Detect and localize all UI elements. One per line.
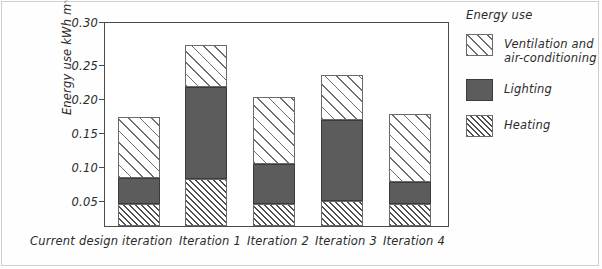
legend-item-heating[interactable]: Heating [466,115,598,137]
bar-segment-heating[interactable] [118,204,160,226]
bar-segment-ventilation[interactable] [118,117,160,178]
legend-item-ventilation[interactable]: Ventilation and air-conditioning [466,34,598,65]
bar-current-design-iteration[interactable] [118,22,160,226]
y-tick-label-5: 0.30 [54,16,98,30]
legend-label-lighting: Lighting [504,79,552,96]
legend-label-ventilation-line2: air-conditioning [504,51,597,65]
bar-segment-ventilation[interactable] [321,75,363,120]
bar-segment-heating[interactable] [321,201,363,226]
bar-iteration-1[interactable] [185,22,227,226]
legend-label-ventilation-line1: Ventilation and [504,37,597,51]
bar-segment-ventilation[interactable] [389,114,431,182]
bar-segment-lighting[interactable] [118,178,160,204]
legend-label-heating: Heating [504,115,550,132]
legend-label-ventilation: Ventilation and air-conditioning [504,34,597,65]
legend-swatch-heating-icon [466,115,493,137]
bar-iteration-3[interactable] [321,22,363,226]
y-tick-label-1: 0.10 [54,161,98,175]
y-tick-label-0: 0.05 [54,195,98,209]
bar-segment-heating[interactable] [389,204,431,226]
y-axis-title-superscript: -2 [60,0,69,4]
legend-item-lighting[interactable]: Lighting [466,79,598,101]
y-tick-label-3: 0.20 [54,93,98,107]
legend-swatch-lighting-icon [466,79,493,101]
bar-segment-lighting[interactable] [321,120,363,201]
x-tick-label-current-design-iteration: Current design iteration [30,234,170,248]
x-tick-label-iteration-4: Iteration 4 [359,234,469,248]
bar-segment-lighting[interactable] [389,182,431,204]
bar-segment-lighting[interactable] [253,164,295,204]
y-tick-label-2: 0.15 [54,127,98,141]
y-tick-label-4: 0.25 [54,59,98,73]
legend-title: Energy use [466,8,598,22]
energy-use-stacked-bar-chart: Energy use kWh m-2 0.05 0.10 0.15 0.20 0… [0,0,602,269]
bar-segment-lighting[interactable] [185,87,227,179]
chart-legend: Energy use Ventilation and air-condition… [466,8,598,151]
legend-swatch-ventilation-icon [466,34,493,56]
bar-segment-heating[interactable] [185,179,227,226]
bar-segment-ventilation[interactable] [185,45,227,87]
plot-area [104,22,449,227]
bar-segment-heating[interactable] [253,204,295,226]
bar-iteration-4[interactable] [389,22,431,226]
bar-segment-ventilation[interactable] [253,97,295,164]
bar-iteration-2[interactable] [253,22,295,226]
